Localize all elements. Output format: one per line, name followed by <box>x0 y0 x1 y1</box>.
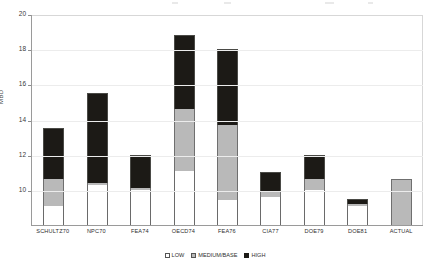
bar-segment-low <box>130 190 151 225</box>
y-axis-tick-mark <box>28 191 31 192</box>
x-axis-tick-label: DOE81 <box>338 228 378 242</box>
y-axis-tick-mark <box>28 85 31 86</box>
bar-segment-low <box>174 171 195 226</box>
x-axis: SCHULTZ70NPC70FEA74OECD74FEA76CIA77DOE79… <box>31 228 423 242</box>
legend-label-low: LOW <box>172 252 185 258</box>
chart-legend: LOW MEDIUM/BASE HIGH <box>0 252 430 258</box>
plot-area <box>31 15 423 226</box>
legend-item-low: LOW <box>165 252 185 258</box>
y-axis-tick-label: 14 <box>19 116 26 123</box>
y-axis-tick-mark <box>28 156 31 157</box>
scan-artifact <box>368 2 373 4</box>
legend-label-medium-base: MEDIUM/BASE <box>198 252 237 258</box>
scan-artifact <box>224 2 231 4</box>
legend-label-high: HIGH <box>251 252 265 258</box>
bar-segment-high <box>43 128 64 179</box>
bar-segment-low <box>43 206 64 225</box>
x-axis-tick-label: OECD74 <box>163 228 203 242</box>
gridline <box>32 191 423 192</box>
bar-stack <box>347 199 368 225</box>
bar-stack <box>391 179 412 225</box>
bar-stack <box>217 49 238 225</box>
bar-segment-low <box>217 200 238 225</box>
bar-stack <box>43 128 64 225</box>
scan-artifact <box>325 2 334 4</box>
scan-artifact <box>172 2 178 4</box>
x-axis-tick-label: ACTUAL <box>381 228 421 242</box>
bar-segment-medium-base <box>174 109 195 171</box>
x-axis-tick-label: NPC70 <box>76 228 116 242</box>
gridline <box>32 50 423 51</box>
bar-stack <box>87 93 108 225</box>
bar-segment-high <box>217 49 238 125</box>
bar-segment-medium-base <box>304 179 325 190</box>
gridline <box>32 121 423 122</box>
x-axis-tick-label: SCHULTZ70 <box>33 228 73 242</box>
y-axis-tick-mark <box>28 50 31 51</box>
x-axis-tick-label: DOE79 <box>294 228 334 242</box>
legend-swatch-low-icon <box>165 253 170 258</box>
y-axis-tick-label: 12 <box>19 151 26 158</box>
bar-segment-high <box>87 93 108 183</box>
legend-swatch-medium-base-icon <box>191 253 196 258</box>
bar-segment-high <box>130 155 151 188</box>
y-axis-tick-mark <box>28 15 31 16</box>
x-axis-tick-label: CIA77 <box>251 228 291 242</box>
y-axis-tick-label: 10 <box>19 186 26 193</box>
bar-segment-medium-base <box>217 125 238 201</box>
bar-segment-low <box>304 190 325 225</box>
bar-segment-high <box>304 155 325 180</box>
bar-segment-low <box>260 197 281 225</box>
y-axis-title: MBD <box>0 89 4 104</box>
bar-stack <box>174 35 195 225</box>
y-axis-tick-mark <box>28 121 31 122</box>
bar-segment-medium-base <box>43 179 64 205</box>
bar-stack <box>260 172 281 225</box>
bar-segment-high <box>260 172 281 191</box>
gridline <box>32 85 423 86</box>
forecast-bar-chart: MBD 201816141210 SCHULTZ70NPC70FEA74OECD… <box>0 0 430 270</box>
x-axis-tick-label: FEA74 <box>120 228 160 242</box>
y-axis-tick-label: 18 <box>19 45 26 52</box>
bar-segment-low <box>347 206 368 225</box>
bar-segment-high <box>174 35 195 109</box>
bar-segment-actual <box>391 179 412 225</box>
gridline <box>32 156 423 157</box>
x-axis-tick-label: FEA76 <box>207 228 247 242</box>
legend-item-high: HIGH <box>244 252 265 258</box>
y-axis-tick-label: 16 <box>19 80 26 87</box>
legend-item-medium-base: MEDIUM/BASE <box>191 252 237 258</box>
y-axis-tick-label: 20 <box>19 10 26 17</box>
legend-swatch-high-icon <box>244 253 249 258</box>
